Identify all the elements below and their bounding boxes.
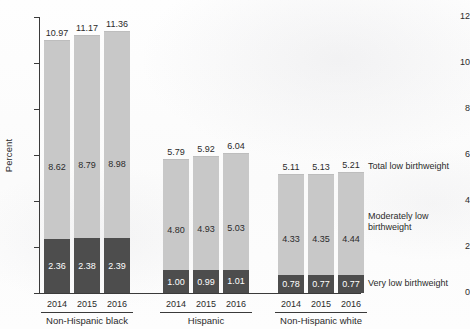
bar-label-total: 5.11 [274,163,308,172]
y-axis-tick-mark [34,293,39,294]
group-label: Non-Hispanic white [260,316,382,326]
y-axis-tick-mark [34,63,39,64]
bar-label-total: 5.92 [189,145,223,154]
group-label: Hispanic [145,316,267,326]
bar-label-moderately-low: 8.62 [40,163,74,172]
y-axis-tick-label: 10 [440,58,470,67]
group-label: Non-Hispanic black [26,316,148,326]
bar-label-moderately-low: 4.35 [304,235,338,244]
y-axis-tick-mark [34,17,39,18]
bar-label-total: 5.21 [334,161,368,170]
x-axis-year-label: 2016 [219,300,253,309]
bar-label-very-low: 0.77 [334,280,368,289]
y-axis-tick-mark [34,155,39,156]
bar-label-total: 6.04 [219,142,253,151]
bar-label-total: 5.79 [159,148,193,157]
y-axis-tick-label: 2 [440,242,470,251]
y-axis-tick-mark [34,109,39,110]
bar-segment-moderately-low [308,174,334,275]
group-rule [160,312,252,313]
bar-label-moderately-low: 4.44 [334,235,368,244]
legend-label: Total low birthweight [368,161,449,172]
bar-label-moderately-low: 4.33 [274,235,308,244]
x-axis-year-label: 2014 [159,300,193,309]
bar-segment-moderately-low [193,156,219,270]
legend-label: Very low birthweight [368,278,448,289]
x-axis-year-label: 2014 [40,300,74,309]
y-axis-tick-mark [34,201,39,202]
bar-segment-moderately-low [163,159,189,270]
y-axis-tick-label: 6 [440,150,470,159]
bar-label-very-low: 2.39 [100,262,134,271]
y-axis-tick-label: 8 [440,104,470,113]
x-axis-year-label: 2016 [100,300,134,309]
bar-segment-moderately-low [74,35,100,238]
bar-label-very-low: 0.77 [304,280,338,289]
bar-label-very-low: 0.78 [274,280,308,289]
bar-label-moderately-low: 4.80 [159,226,193,235]
bar-label-very-low: 0.99 [189,278,223,287]
y-axis-tick-mark [34,247,39,248]
bar-label-total: 11.36 [100,20,134,29]
y-axis-tick-label: 0 [440,288,470,297]
x-axis-year-label: 2015 [189,300,223,309]
y-axis-tick-label: 12 [440,12,470,21]
y-axis-line [39,17,40,294]
bar-segment-moderately-low [44,40,70,239]
bar-label-total: 10.97 [40,29,74,38]
bar-segment-moderately-low [278,174,304,275]
bar-label-moderately-low: 4.93 [189,225,223,234]
bar-label-very-low: 2.38 [70,262,104,271]
birthweight-stacked-bar-chart: 024681012 Percent 10.978.622.36201411.17… [0,0,470,329]
x-axis-year-label: 2014 [274,300,308,309]
bar-label-very-low: 2.36 [40,262,74,271]
x-axis-year-label: 2015 [304,300,338,309]
bar-label-total: 11.17 [70,24,104,33]
bar-segment-moderately-low [223,153,249,270]
bar-label-moderately-low: 8.98 [100,160,134,169]
bar-label-very-low: 1.01 [219,277,253,286]
bar-segment-moderately-low [338,172,364,275]
group-rule [275,312,367,313]
bar-segment-moderately-low [104,31,130,238]
bar-label-total: 5.13 [304,163,338,172]
group-rule [41,312,133,313]
bar-label-very-low: 1.00 [159,278,193,287]
bar-label-moderately-low: 8.79 [70,161,104,170]
y-axis-tick-label: 4 [440,196,470,205]
y-axis-title: Percent [3,126,14,186]
x-axis-year-label: 2015 [70,300,104,309]
x-axis-year-label: 2016 [334,300,368,309]
bar-label-moderately-low: 5.03 [219,224,253,233]
x-axis-line [39,293,361,294]
legend-label: Moderately low birthweight [368,211,429,233]
